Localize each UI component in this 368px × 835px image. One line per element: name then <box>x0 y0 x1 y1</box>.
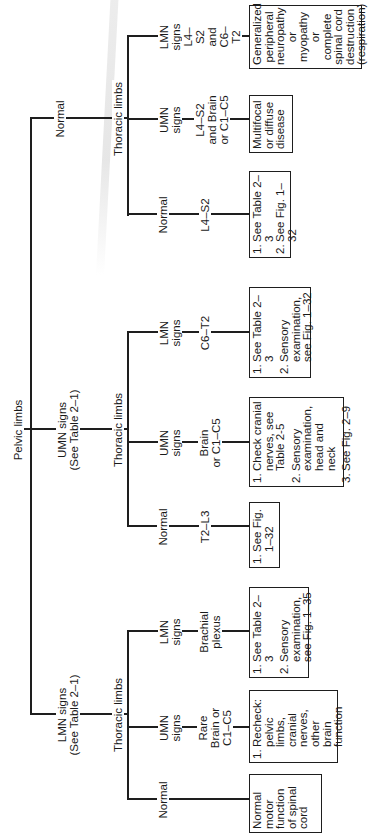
b0-umn-sign: UMN signs <box>158 105 182 136</box>
b2-lmn-result-box: 1.See Table 2–3 2.Sensory examination, s… <box>249 587 309 678</box>
box-item: 1.Recheck: pelvic limbs, cranial nerves,… <box>252 694 345 759</box>
b0-normal-result-box: 1.See Table 2–3 2.See Fig. 1–32 <box>249 171 291 258</box>
box-item: 1.Check cranial nerves, see Table 2-5 <box>252 401 287 483</box>
box-item: 2.Sensory examination, head and neck <box>291 401 337 483</box>
b2-umn-sign: UMN signs <box>158 713 182 744</box>
b0-normal-line <box>127 213 250 215</box>
trunk-line <box>30 119 32 715</box>
box-item: 1.See Fig. 1–32 <box>252 506 275 564</box>
b1-lmn-line <box>127 331 250 333</box>
b0-lmn-result-box: Generalized peripheral neuropathy or myo… <box>249 5 362 69</box>
b2-normal-sign: Normal <box>157 779 169 820</box>
box-item: 1.See Table 2–3 <box>252 291 275 374</box>
b1-lmn-result-box: 1.See Table 2–3 2.Sensory examination, s… <box>249 287 311 378</box>
b0-lmn-sign: LMN signs <box>158 22 182 53</box>
branch-1-pelvic-label: UMN signs (See Table 2–1) <box>56 388 80 473</box>
b1-umn-result-box: 1.Check cranial nerves, see Table 2-5 2.… <box>249 397 344 487</box>
box-item: 1.See Table 2–3 <box>252 591 275 674</box>
b1-lmn-location: C6–T2 <box>199 314 211 353</box>
branch-0-bar <box>127 36 129 216</box>
b0-normal-sign: Normal <box>157 194 169 235</box>
branch-0-pelvic-label: LMN signs (See Table 2–1) <box>56 673 80 758</box>
b1-lmn-sign: LMN signs <box>158 318 182 349</box>
b0-umn-result-box: Multifocal or diffuse disease <box>249 95 293 153</box>
b1-umn-line <box>127 441 250 443</box>
b2-lmn-line <box>127 630 250 632</box>
b2-umn-location: Rare Brain or C1–C5 <box>197 706 233 750</box>
b1-normal-location: T2–L3 <box>199 509 211 546</box>
b2-normal-line <box>127 798 250 800</box>
b1-normal-line <box>127 525 250 527</box>
branch-1-bar <box>127 332 129 527</box>
root-label-pelvic-limbs: Pelvic limbs <box>12 398 24 463</box>
branch-2-pelvic-label: Normal <box>54 98 66 139</box>
b2-lmn-location: Brachial plexus <box>198 609 222 655</box>
b1-normal-result-box: 1.See Fig. 1–32 <box>249 502 280 568</box>
box-item: 1.See Table 2–3 <box>252 175 275 254</box>
box-item: 2.Sensory examination, see Fig. 1–32 <box>279 291 314 374</box>
b2-lmn-sign: LMN signs <box>158 617 182 648</box>
box-item: 3.See Fig. 2–9 <box>341 401 353 483</box>
b2-normal-result-box: Normal motor function of spinal cord <box>249 774 322 833</box>
box-item: 2.Sensory examination, see Fig. 1–35 <box>279 591 314 674</box>
branch-2-thoracic-label: Thoracic limbs <box>112 80 124 158</box>
b2-umn-result-box: 1.Recheck: pelvic limbs, cranial nerves,… <box>249 690 338 763</box>
branch-1-thoracic-label: Thoracic limbs <box>112 391 124 469</box>
b1-normal-sign: Normal <box>157 506 169 547</box>
b0-normal-location: L4–S2 <box>199 196 211 233</box>
branch-0-thoracic-label: Thoracic limbs <box>112 676 124 754</box>
b1-umn-sign: UMN signs <box>158 428 182 459</box>
box-item: 2.See Fig. 1–32 <box>275 175 298 254</box>
b0-umn-location: L4–S2 and Brain or C1–C5 <box>194 93 230 146</box>
branch-2-bar <box>127 630 129 800</box>
b0-lmn-location: L4–S2 and C6–T2 <box>182 19 242 56</box>
diagram-canvas: Pelvic limbs LMN signs (See Table 2–1) T… <box>0 0 368 835</box>
b1-umn-location: Brain or C1–C5 <box>198 416 222 469</box>
b0-umn-line <box>127 118 250 120</box>
